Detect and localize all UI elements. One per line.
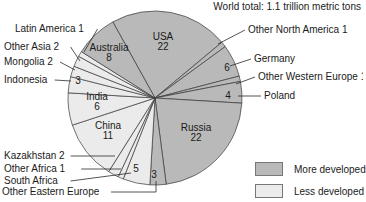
- chart-title: World total: 1.1 trillion metric tons: [213, 1, 361, 12]
- slice-value-usa: 22: [157, 41, 169, 52]
- legend-item-more-developed: More developed: [255, 158, 366, 180]
- leader-line-indonesia: [55, 80, 71, 81]
- slice-label-other-north-america: Other North America 1: [248, 24, 348, 35]
- slice-value-australia: 8: [106, 52, 112, 63]
- slice-label-indonesia: Indonesia: [4, 74, 48, 85]
- slice-value-russia: 22: [190, 132, 202, 143]
- slice-value-poland: 4: [225, 90, 231, 101]
- slice-label-other-africa: Other Africa 1: [4, 163, 66, 174]
- legend-swatch-less-developed: [255, 184, 283, 198]
- slice-label-other-asia: Other Asia 2: [4, 41, 59, 52]
- legend: More developed Less developed: [255, 158, 366, 202]
- slice-label-other-western-europe: Other Western Europe 1: [258, 71, 363, 82]
- slice-label-mongolia: Mongolia 2: [4, 56, 53, 67]
- slice-value-india: 6: [94, 101, 100, 112]
- slice-value-china: 11: [103, 130, 114, 141]
- slice-value-germany: 6: [224, 62, 230, 73]
- leader-line-other-north-america: [218, 30, 245, 44]
- legend-item-less-developed: Less developed: [255, 180, 366, 202]
- legend-label-less-developed: Less developed: [294, 186, 364, 197]
- slice-label-germany: Germany: [254, 53, 295, 64]
- slice-label-latin-america: Latin America 1: [15, 23, 84, 34]
- leader-line-other-asia: [71, 47, 80, 61]
- slice-value-other-eastern-europe: 3: [151, 169, 157, 180]
- slice-label-kazakhstan: Kazakhstan 2: [4, 150, 65, 161]
- legend-label-more-developed: More developed: [294, 164, 366, 175]
- legend-swatch-more-developed: [255, 162, 283, 176]
- leader-line-mongolia: [60, 62, 75, 70]
- slice-label-poland: Poland: [264, 90, 295, 101]
- slice-label-south-africa: South Africa: [4, 175, 58, 186]
- slice-value-indonesia: 3: [75, 75, 81, 86]
- slice-label-other-eastern-europe: Other Eastern Europe: [2, 186, 100, 197]
- slice-value-south-africa: 5: [133, 163, 139, 174]
